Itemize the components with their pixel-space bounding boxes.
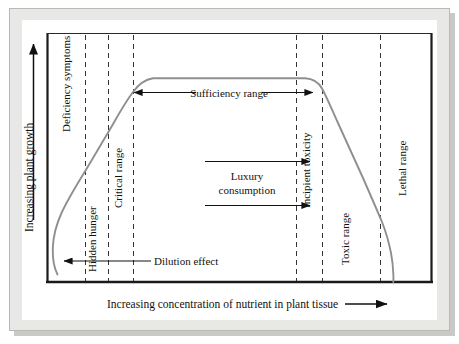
zone-label-critical-range: Critical range xyxy=(112,148,124,208)
dilution-effect-label: Dilution effect xyxy=(154,255,218,267)
figure-root: Increasing plant growth Increasing conce… xyxy=(0,0,459,344)
zone-label-incipient-toxicity: Incipient toxicity xyxy=(300,132,312,208)
annotation-sufficiency-range: Sufficiency range xyxy=(134,87,313,99)
chart-canvas: Increasing plant growth Increasing conce… xyxy=(0,0,459,344)
sufficiency-range-label: Sufficiency range xyxy=(190,87,268,99)
zone-label-hidden-hunger: Hidden hunger xyxy=(86,206,98,272)
zone-label-lethal-range: Lethal range xyxy=(396,141,408,196)
luxury-consumption-label-line2: consumption xyxy=(219,184,276,196)
plot-frame xyxy=(46,33,433,283)
y-axis-label-group: Increasing plant growth xyxy=(23,44,36,232)
zone-boundaries xyxy=(86,35,381,281)
x-axis-label-group: Increasing concentration of nutrient in … xyxy=(107,298,387,311)
y-axis-label: Increasing plant growth xyxy=(23,123,36,232)
zone-label-deficiency-symptoms: Deficiency symptoms xyxy=(60,36,72,132)
luxury-consumption-label-line1: Luxury xyxy=(231,170,264,182)
zone-label-toxic-range: Toxic range xyxy=(339,213,351,265)
annotation-luxury-consumption: Luxury consumption xyxy=(205,162,310,206)
x-axis-label: Increasing concentration of nutrient in … xyxy=(107,298,338,311)
